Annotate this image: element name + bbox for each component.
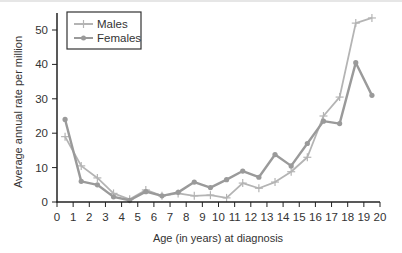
- x-tick-label: 15: [293, 211, 306, 223]
- x-tick-label: 2: [86, 211, 92, 223]
- x-tick-label: 18: [341, 211, 354, 223]
- data-point-circle-icon: [369, 93, 374, 98]
- x-tick-label: 13: [261, 211, 274, 223]
- series-females: [62, 60, 374, 203]
- data-point-circle-icon: [240, 168, 245, 173]
- data-point-circle-icon: [256, 175, 261, 180]
- data-point-plus-icon: [206, 191, 214, 199]
- y-tick-label: 10: [35, 162, 48, 174]
- data-point-circle-icon: [321, 119, 326, 124]
- data-point-circle-icon: [159, 193, 164, 198]
- x-tick-label: 11: [229, 211, 241, 223]
- data-point-circle-icon: [224, 177, 229, 182]
- data-point-plus-icon: [368, 14, 376, 22]
- line-chart: 0102030405001234567891011121314151617181…: [0, 0, 402, 253]
- data-point-circle-icon: [192, 179, 197, 184]
- y-tick-label: 20: [35, 127, 48, 139]
- x-tick-label: 8: [183, 211, 189, 223]
- data-point-circle-icon: [176, 190, 181, 195]
- x-tick-label: 0: [54, 211, 60, 223]
- data-point-circle-icon: [143, 189, 148, 194]
- x-axis-title: Age (in years) at diagnosis: [153, 232, 284, 244]
- data-point-plus-icon: [352, 19, 360, 27]
- x-tick-label: 16: [309, 211, 322, 223]
- x-tick-label: 17: [325, 211, 338, 223]
- x-tick-label: 12: [244, 211, 257, 223]
- y-axis-title: Average annual rate per million: [12, 36, 24, 188]
- x-tick-label: 6: [151, 211, 157, 223]
- data-point-circle-icon: [353, 60, 358, 65]
- x-tick-label: 7: [167, 211, 173, 223]
- data-point-circle-icon: [337, 121, 342, 126]
- data-point-plus-icon: [255, 184, 263, 192]
- y-tick-label: 50: [35, 24, 48, 36]
- x-tick-label: 19: [357, 211, 370, 223]
- x-tick-label: 4: [118, 211, 125, 223]
- data-point-plus-icon: [190, 192, 198, 200]
- y-tick-label: 30: [35, 93, 48, 105]
- x-tick-label: 1: [70, 211, 76, 223]
- legend-males-label: Males: [97, 18, 128, 30]
- data-point-circle-icon: [272, 152, 277, 157]
- data-point-circle-icon: [111, 194, 116, 199]
- x-tick-label: 14: [277, 211, 290, 223]
- x-tick-label: 5: [135, 211, 141, 223]
- data-point-circle-icon: [79, 179, 84, 184]
- x-tick-label: 3: [102, 211, 108, 223]
- legend: Males Females: [67, 12, 141, 49]
- data-point-circle-icon: [208, 185, 213, 190]
- legend-females-label: Females: [97, 32, 141, 44]
- data-point-circle-icon: [95, 182, 100, 187]
- x-tick-label: 10: [212, 211, 225, 223]
- data-point-circle-icon: [289, 163, 294, 168]
- x-tick-label: 20: [374, 211, 387, 223]
- y-tick-label: 0: [42, 196, 48, 208]
- data-point-circle-icon: [62, 117, 67, 122]
- y-tick-label: 40: [35, 58, 48, 70]
- data-point-circle-icon: [305, 141, 310, 146]
- x-tick-label: 9: [199, 211, 205, 223]
